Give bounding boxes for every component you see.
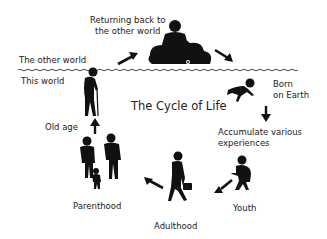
born-label-line1: Born: [273, 79, 309, 90]
adulthood-label: Adulthood: [154, 221, 197, 232]
arrow-to-adulthood-icon: [214, 180, 232, 193]
youth-figure-icon: [231, 156, 251, 191]
arrow-down-icon: [261, 106, 271, 122]
diagram-title: The Cycle of Life: [131, 99, 227, 113]
baby-crawling-icon: [227, 79, 255, 103]
youth-label: Youth: [233, 203, 256, 214]
born-label-line2: on Earth: [273, 90, 309, 101]
other-world-label: The other world: [19, 55, 86, 66]
arrow-to-heaven-icon: [118, 52, 138, 64]
accumulate-label-line2: experiences: [218, 138, 302, 149]
adulthood-figure-icon: [168, 152, 192, 202]
cycle-of-life-diagram: Returning back to the other world The ot…: [0, 0, 327, 239]
returning-label-line2: the other world: [90, 26, 166, 37]
born-label: Born on Earth: [273, 79, 309, 100]
this-world-label: This world: [21, 76, 64, 87]
world-divider-line: [18, 69, 298, 71]
returning-label-line1: Returning back to: [90, 15, 166, 26]
old-age-label: Old age: [45, 122, 78, 133]
accumulate-label-line1: Accumulate various: [218, 127, 302, 138]
arrow-to-parenthood-icon: [144, 177, 163, 188]
arrow-up-icon: [90, 118, 100, 134]
parenthood-label: Parenthood: [73, 201, 121, 212]
returning-label: Returning back to the other world: [90, 15, 166, 36]
accumulate-label: Accumulate various experiences: [218, 127, 302, 148]
old-age-figure-icon: [84, 68, 98, 117]
arrow-to-earth-icon: [215, 50, 233, 62]
parenthood-family-icon: [80, 134, 121, 190]
